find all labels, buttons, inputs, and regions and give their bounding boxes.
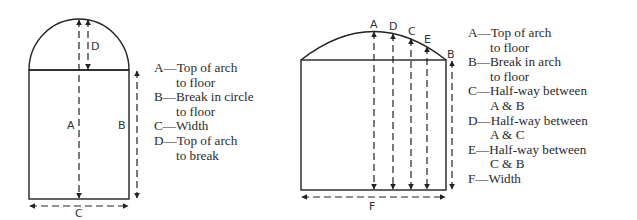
legend-item-b: B—Break in arch [468, 55, 588, 70]
label-c: C [408, 25, 416, 38]
legend-item-c: C—Width [154, 119, 254, 134]
label-a: A [370, 18, 378, 31]
label-a: A [67, 119, 75, 132]
legend-item-a: A—Top of arch [468, 26, 588, 41]
segmental-arch-figure: A D C E B F [301, 18, 455, 213]
label-d: D [91, 40, 99, 53]
legend-semicircular-arch: A—Top of arch to floor B—Break in circle… [154, 61, 254, 163]
label-e: E [424, 33, 431, 46]
label-d: D [389, 20, 397, 33]
legend-segmental-arch: A—Top of arch to floor B—Break in arch t… [468, 26, 588, 187]
label-b: B [118, 119, 126, 132]
legend-item-d: D—Half-way between [468, 114, 588, 129]
label-c: C [75, 207, 83, 220]
legend-item-b: B—Break in circle [154, 90, 254, 105]
legend-item-f: F—Width [468, 172, 588, 187]
legend-item-a: A—Top of arch [154, 61, 254, 76]
legend-item-e: E—Half-way between [468, 143, 588, 158]
legend-item-c: C—Half-way between [468, 84, 588, 99]
label-f: F [369, 200, 375, 213]
label-b: B [447, 48, 455, 61]
legend-item-d: D—Top of arch [154, 134, 254, 149]
semicircular-arch-figure: D A B C [29, 19, 137, 220]
